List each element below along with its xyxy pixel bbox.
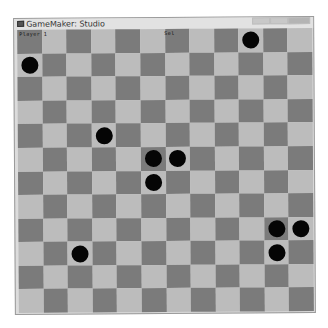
board-cell[interactable] [142,288,167,312]
board-cell[interactable] [43,242,68,266]
board-cell[interactable] [140,53,165,77]
board-cell[interactable] [264,170,289,194]
game-piece[interactable] [268,244,285,261]
board-cell[interactable] [166,241,191,265]
board-cell[interactable] [92,265,117,289]
board-cell[interactable] [116,147,141,171]
board-cell[interactable] [42,148,67,172]
board-cell[interactable] [288,75,313,99]
board-cell[interactable] [214,29,239,53]
board-cell[interactable] [288,146,313,170]
board-cell[interactable] [239,52,264,76]
board-cell[interactable] [239,76,264,100]
board-cell[interactable] [240,288,265,312]
board-cell[interactable] [91,100,116,124]
board-cell[interactable] [264,146,289,170]
game-piece[interactable] [268,220,285,237]
board-cell[interactable] [92,194,117,218]
board-cell[interactable] [189,29,214,53]
board-cell[interactable] [190,99,215,123]
board-cell[interactable] [264,123,289,147]
close-button[interactable] [288,17,310,24]
board-cell[interactable] [117,241,142,265]
board-cell[interactable] [42,53,67,77]
board-cell[interactable] [190,194,215,218]
board-cell[interactable] [18,100,43,124]
board-cell[interactable] [239,193,264,217]
minimize-button[interactable] [252,17,270,24]
board-cell[interactable] [288,99,313,123]
board-cell[interactable] [289,264,314,288]
board-cell[interactable] [166,217,191,241]
board-cell[interactable] [214,123,239,147]
board-cell[interactable] [288,170,313,194]
board-cell[interactable] [215,194,240,218]
board-cell[interactable] [214,76,239,100]
board-cell[interactable] [165,52,190,76]
board-cell[interactable] [166,170,191,194]
board-cell[interactable] [215,264,240,288]
board-cell[interactable] [191,241,216,265]
board-cell[interactable] [67,124,92,148]
board-cell[interactable] [264,240,289,264]
board-cell[interactable] [18,148,43,172]
board-cell[interactable] [68,265,93,289]
board-cell[interactable] [288,28,313,52]
board-cell[interactable] [42,100,67,124]
game-piece[interactable] [169,150,186,167]
board-cell[interactable] [141,100,166,124]
board-cell[interactable] [141,123,166,147]
board-cell[interactable] [67,100,92,124]
maximize-button[interactable] [270,17,288,24]
board-cell[interactable] [42,124,67,148]
board-cell[interactable] [239,123,264,147]
board-cell[interactable] [92,171,117,195]
board-cell[interactable] [239,170,264,194]
board-cell[interactable] [166,194,191,218]
board-cell[interactable] [91,29,116,53]
board-cell[interactable] [67,218,92,242]
board-cell[interactable] [140,76,165,100]
board-cell[interactable] [19,289,44,313]
board-cell[interactable] [289,193,314,217]
board-cell[interactable] [189,52,214,76]
board-cell[interactable] [117,194,142,218]
board-cell[interactable] [67,147,92,171]
board-cell[interactable] [93,289,118,313]
board-cell[interactable] [66,29,91,53]
board-cell[interactable] [264,264,289,288]
game-piece[interactable] [21,57,38,74]
board-cell[interactable] [190,123,215,147]
board-cell[interactable] [215,241,240,265]
board-cell[interactable] [141,194,166,218]
board-cell[interactable] [190,217,215,241]
board-cell[interactable] [17,77,42,101]
board-cell[interactable] [190,76,215,100]
board-cell[interactable] [18,124,43,148]
board-cell[interactable] [214,52,239,76]
board-cell[interactable] [215,217,240,241]
board-cell[interactable] [289,287,314,311]
board-cell[interactable] [117,265,142,289]
board-cell[interactable] [18,242,43,266]
board-cell[interactable] [190,170,215,194]
game-piece[interactable] [293,220,310,237]
board-cell[interactable] [91,124,116,148]
board-cell[interactable] [142,265,167,289]
board-cell[interactable] [43,171,68,195]
board-cell[interactable] [289,217,314,241]
game-piece[interactable] [95,127,112,144]
board-cell[interactable] [141,241,166,265]
board-cell[interactable] [214,99,239,123]
board-cell[interactable] [140,29,165,53]
board-cell[interactable] [18,171,43,195]
board-cell[interactable] [141,147,166,171]
board-cell[interactable] [116,76,141,100]
board-cell[interactable] [265,288,290,312]
game-board[interactable] [17,28,314,313]
board-cell[interactable] [18,218,43,242]
board-cell[interactable] [117,289,142,313]
board-cell[interactable] [165,147,190,171]
board-cell[interactable] [117,218,142,242]
board-cell[interactable] [43,195,68,219]
